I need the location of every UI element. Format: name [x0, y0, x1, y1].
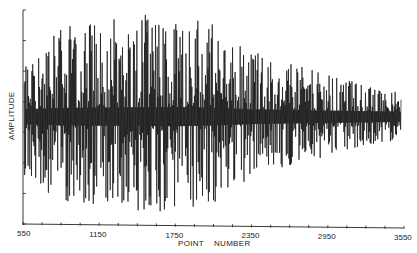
x-tick-label: 2950: [318, 232, 336, 241]
x-axis-title-point: POINT: [178, 239, 204, 248]
x-tick-label: 550: [17, 229, 31, 238]
y-axis-title: AMPLITUDE: [7, 92, 16, 141]
x-ticks: [23, 222, 404, 229]
waveform-series: [24, 15, 401, 211]
x-tick-label: 1150: [89, 230, 107, 239]
plot-area: [24, 15, 401, 211]
x-axis-title-number: NUMBER: [214, 239, 250, 248]
x-tick-label: 3550: [394, 233, 412, 242]
waveform-chart: 55011501750235029503550 AMPLITUDE POINT …: [0, 0, 417, 253]
